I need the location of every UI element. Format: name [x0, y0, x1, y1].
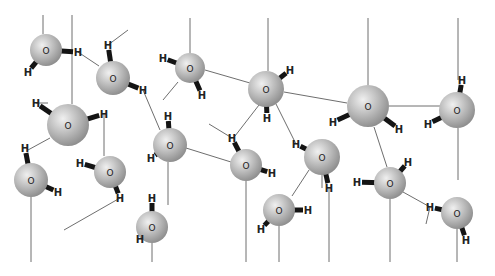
hydrogen-label: H: [304, 205, 312, 216]
hydrogen-label: H: [286, 65, 294, 76]
hydrogen-label: H: [458, 75, 466, 86]
hydrogen-label: H: [139, 85, 147, 96]
oxygen-label: O: [109, 74, 116, 84]
oxygen-label: O: [106, 168, 113, 178]
hydrogen-label: H: [100, 109, 108, 120]
oxygen-label: O: [27, 176, 34, 186]
hydrogen-label: H: [462, 235, 470, 246]
oxygen-label: O: [275, 206, 282, 216]
hydrogen-label: H: [24, 67, 32, 78]
hydrogen-label: H: [353, 177, 361, 188]
hydrogen-label: H: [32, 98, 40, 109]
hydrogen-label: H: [404, 157, 412, 168]
hydrogen-label: H: [292, 139, 300, 150]
oxygen-label: O: [186, 64, 193, 74]
hydrogen-label: H: [21, 143, 29, 154]
hydrogen-label: H: [329, 117, 337, 128]
hydrogen-label: H: [136, 234, 144, 245]
hydrogen-label: H: [76, 158, 84, 169]
oxygen-label: O: [42, 46, 49, 56]
oxygen-label: O: [318, 153, 325, 163]
oxygen-label: O: [386, 179, 393, 189]
hydrogen-label: H: [395, 124, 403, 135]
oxygen-label: O: [148, 223, 155, 233]
hydrogen-label: H: [198, 90, 206, 101]
hydrogen-label: H: [74, 47, 82, 58]
hydrogen-label: H: [104, 40, 112, 51]
hydrogen-label: H: [268, 168, 276, 179]
oxygen-label: O: [364, 102, 371, 112]
oxygen-label: O: [453, 106, 460, 116]
hydrogen-label: H: [159, 53, 167, 64]
oxygen-label: O: [453, 209, 460, 219]
hydrogen-label: H: [54, 187, 62, 198]
oxygen-label: O: [262, 85, 269, 95]
water-hydrogen-bond-diagram: OHHOHHOHHOHHOHHOHHOHHOHHOHHOHHOHHOHHOHHO…: [0, 0, 495, 276]
hydrogen-label: H: [426, 202, 434, 213]
oxygen-label: O: [64, 121, 71, 131]
oxygen-label: O: [242, 161, 249, 171]
hydrogen-label: H: [263, 113, 271, 124]
hydrogen-label: H: [116, 193, 124, 204]
hydrogen-label: H: [147, 153, 155, 164]
hydrogen-label: H: [257, 224, 265, 235]
hydrogen-label: H: [424, 119, 432, 130]
hydrogen-label: H: [325, 183, 333, 194]
hydrogen-label: H: [164, 111, 172, 122]
oxygen-label: O: [166, 141, 173, 151]
hydrogen-label: H: [148, 193, 156, 204]
hydrogen-label: H: [228, 133, 236, 144]
